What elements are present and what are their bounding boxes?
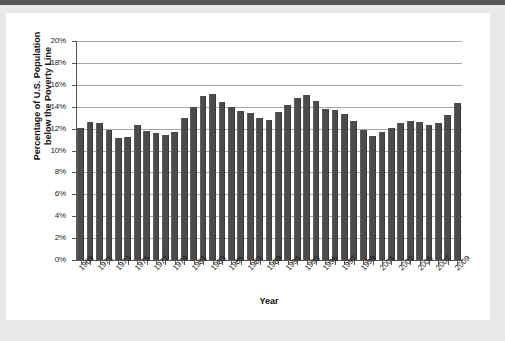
- x-axis-tick-mark: [109, 261, 110, 265]
- bar: [275, 112, 282, 260]
- bar: [444, 115, 451, 260]
- bar: [162, 135, 169, 260]
- x-axis-tick-mark: [297, 261, 298, 265]
- bar: [106, 130, 113, 260]
- bar: [284, 105, 291, 260]
- bar: [209, 94, 216, 260]
- bar: [313, 101, 320, 260]
- bar: [134, 125, 141, 260]
- bar: [153, 133, 160, 260]
- x-axis-tick-mark: [184, 261, 185, 265]
- y-axis-tick-label: 4%: [32, 211, 66, 220]
- x-axis-tick-mark: [241, 261, 242, 265]
- bar: [426, 125, 433, 260]
- x-axis-tick-mark: [448, 261, 449, 265]
- bar: [124, 137, 131, 260]
- bar: [96, 123, 103, 260]
- poverty-rate-bar-chart: Percentage of U.S. Population below the …: [6, 13, 490, 320]
- bar: [322, 109, 329, 260]
- y-axis-tick-label: 2%: [32, 233, 66, 242]
- bar: [454, 103, 461, 260]
- y-axis-tick-label: 8%: [32, 167, 66, 176]
- x-axis-tick-mark: [128, 261, 129, 265]
- x-axis-tick-mark: [278, 261, 279, 265]
- bar: [435, 123, 442, 260]
- y-axis-tick-label: 16%: [32, 80, 66, 89]
- bar: [341, 114, 348, 260]
- x-axis-tick-mark: [165, 261, 166, 265]
- x-axis-tick-mark: [410, 261, 411, 265]
- x-axis-tick-mark: [429, 261, 430, 265]
- y-axis-tick-label: 12%: [32, 124, 66, 133]
- x-axis-tick-mark: [373, 261, 374, 265]
- y-axis-tick-label: 20%: [32, 36, 66, 45]
- x-axis-tick-mark: [203, 261, 204, 265]
- bar: [294, 98, 301, 260]
- x-axis-tick-mark: [222, 261, 223, 265]
- y-axis-tick-label: 10%: [32, 146, 66, 155]
- bar: [388, 128, 395, 260]
- bar: [256, 118, 263, 260]
- bar: [350, 121, 357, 260]
- bar: [407, 121, 414, 260]
- y-axis-tick-label: 0%: [32, 255, 66, 264]
- bar: [219, 102, 226, 260]
- y-axis-tick-label: 18%: [32, 58, 66, 67]
- x-axis-title: Year: [76, 296, 462, 306]
- screenshot-page: Percentage of U.S. Population below the …: [0, 0, 505, 341]
- bar: [77, 128, 84, 260]
- figure-card: Percentage of U.S. Population below the …: [6, 13, 490, 320]
- bar: [247, 113, 254, 260]
- bar: [266, 120, 273, 260]
- bar: [416, 122, 423, 260]
- y-axis-tick-label: 6%: [32, 189, 66, 198]
- bar: [397, 123, 404, 260]
- y-axis-tick-label: 14%: [32, 102, 66, 111]
- x-axis-tick-mark: [335, 261, 336, 265]
- x-axis-tick-mark: [354, 261, 355, 265]
- bar: [181, 118, 188, 260]
- bar: [228, 107, 235, 260]
- bar-series: [76, 41, 462, 260]
- bar: [369, 136, 376, 260]
- bar: [143, 131, 150, 260]
- bar: [303, 95, 310, 260]
- bar: [200, 96, 207, 260]
- bar: [237, 111, 244, 260]
- bar: [87, 122, 94, 260]
- x-axis-tick-mark: [316, 261, 317, 265]
- x-axis-tick-mark: [90, 261, 91, 265]
- bar: [360, 130, 367, 260]
- plot-area: [76, 41, 462, 260]
- x-axis-tick-mark: [147, 261, 148, 265]
- bar: [379, 132, 386, 260]
- bar: [190, 107, 197, 260]
- bar: [171, 132, 178, 260]
- x-axis-tick-mark: [391, 261, 392, 265]
- bar: [115, 138, 122, 260]
- x-axis-tick-mark: [260, 261, 261, 265]
- bar: [332, 110, 339, 260]
